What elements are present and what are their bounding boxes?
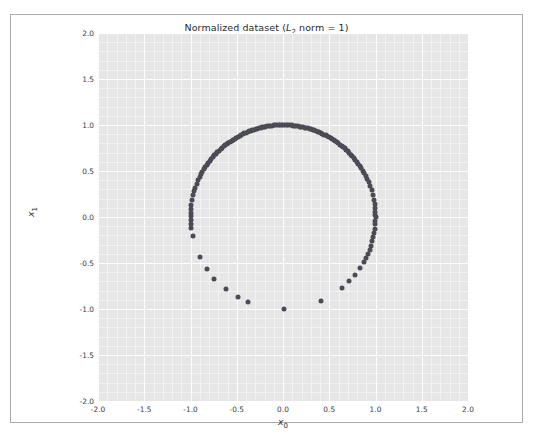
x-axis-tick-labels: -2.0-1.5-1.0-0.50.00.51.01.52.0	[98, 405, 468, 417]
scatter-point	[340, 285, 345, 290]
scatter-point	[223, 287, 228, 292]
scatter-point	[212, 276, 217, 281]
y-axis-label: x1	[25, 207, 39, 217]
scatter-point	[347, 279, 352, 284]
scatter-point	[357, 266, 362, 271]
x-tick-label: -1.0	[183, 405, 197, 414]
scatter-point	[197, 255, 202, 260]
scatter-point	[246, 300, 251, 305]
x-tick-label: -1.5	[137, 405, 151, 414]
scatter-points-layer	[98, 33, 468, 401]
figure-frame: Normalized dataset (L2 norm = 1) x1 x0 -…	[10, 14, 523, 423]
scatter-point	[190, 234, 195, 239]
x-axis-label: x0	[98, 416, 468, 430]
y-tick-label: 2.0	[82, 29, 94, 38]
plot-area	[98, 33, 468, 401]
y-tick-label: 1.5	[82, 75, 94, 84]
y-axis-tick-labels: -2.0-1.5-1.0-0.50.00.51.01.52.0	[51, 33, 94, 401]
x-tick-label: -2.0	[91, 405, 105, 414]
y-axis-label-symbol: x	[25, 212, 36, 217]
y-tick-label: -0.5	[80, 259, 94, 268]
chart-title-prefix: Normalized dataset (	[184, 22, 286, 33]
x-tick-label: 0.5	[323, 405, 335, 414]
y-tick-label: -1.5	[80, 351, 94, 360]
chart-title-suffix: norm = 1)	[296, 22, 349, 33]
scatter-point	[352, 272, 357, 277]
y-tick-label: -1.0	[80, 305, 94, 314]
x-tick-label: 1.5	[416, 405, 428, 414]
x-axis-label-subscript: 0	[283, 422, 287, 430]
x-tick-label: 2.0	[462, 405, 474, 414]
y-tick-label: 0.0	[82, 213, 94, 222]
y-axis-label-subscript: 1	[31, 207, 39, 211]
scatter-point	[236, 295, 241, 300]
y-tick-label: 1.0	[82, 121, 94, 130]
scatter-point	[319, 298, 324, 303]
x-tick-label: -0.5	[230, 405, 244, 414]
y-tick-label: 0.5	[82, 167, 94, 176]
scatter-point	[361, 259, 366, 264]
scatter-point	[204, 267, 209, 272]
scatter-point	[189, 225, 194, 230]
scatter-point	[282, 306, 287, 311]
x-tick-label: 0.0	[277, 405, 289, 414]
x-tick-label: 1.0	[370, 405, 382, 414]
